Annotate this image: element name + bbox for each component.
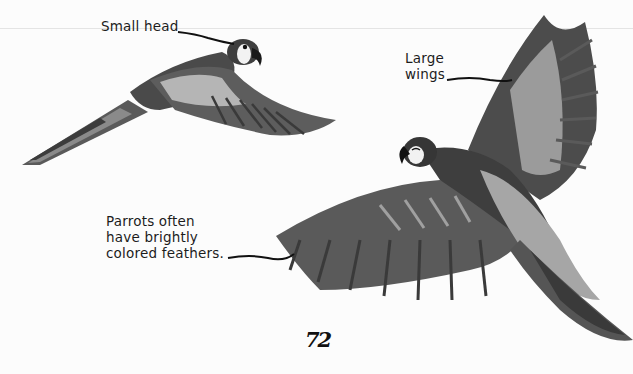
label-small-head: Small head xyxy=(101,18,179,34)
label-large-wings: Large wings xyxy=(405,50,445,82)
book-page: Small head Large wings Parrots often hav… xyxy=(0,0,633,374)
label-parrots-colored-feathers: Parrots often have brightly colored feat… xyxy=(106,213,224,261)
parrot-illustrations xyxy=(0,0,633,374)
parrot-side-illustration xyxy=(22,32,336,165)
page-number: 72 xyxy=(305,327,330,352)
